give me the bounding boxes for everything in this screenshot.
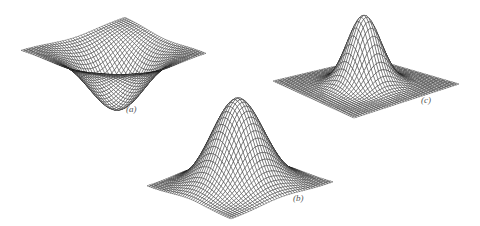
panel-label-a: (a) <box>126 104 137 114</box>
surface-mesh-canvas <box>0 0 480 226</box>
surface-plot-b <box>147 98 333 219</box>
panel-label-c: (c) <box>421 95 431 105</box>
figure-three-surface-plots: (a) (b) (c) <box>0 0 480 226</box>
panel-label-b: (b) <box>293 193 304 203</box>
surface-plot-c <box>273 15 459 118</box>
surface-plot-a <box>21 17 206 110</box>
